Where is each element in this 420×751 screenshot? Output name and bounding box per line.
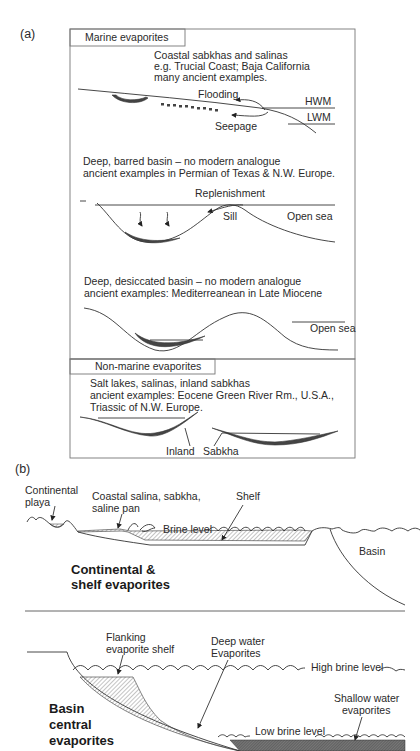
evaporation-arrow-1 [140,212,142,226]
panel-a-label: (a) [20,27,35,41]
barred-desc-1: Deep, barred basin – no modern analogue [83,155,280,167]
flanking-shelf-pointer [118,655,123,674]
coastal-salina-label-2: saline pan [92,502,140,514]
desiccated-desc-1: Deep, desiccated basin – no modern analo… [84,275,301,287]
panel-b-label: (b) [15,462,30,476]
coastal-salina-pointer [118,514,122,528]
replenishment-label: Replenishment [195,187,265,199]
inland-pointer [185,428,190,446]
basin-label: Basin [359,545,385,557]
hwm-label: HWM [305,95,331,107]
inland-label: Inland [166,445,195,457]
high-brine-waves [73,666,305,671]
desiccated-desc-2: ancient examples: Mediterreanean in Late… [84,287,322,299]
open-sea-label-2: Open sea [310,322,356,334]
shelf-label: Shelf [236,490,260,502]
continental-title-2: shelf evaporites [71,577,170,592]
coastal-sabkha-section: Coastal sabkhas and salinas e.g. Trucial… [78,49,335,133]
deep-water-pointer [198,660,228,728]
brine-level-label: Brine level [163,523,212,535]
shallow-water-label-1: Shallow water [334,692,400,704]
continental-shelf-section: Continental playa Coastal salina, sabkha… [25,484,420,605]
marine-header: Marine evaporites [85,31,168,43]
sabkha-deposit-inland [212,428,338,445]
basin-slope [330,529,405,605]
open-sea-label-1: Open sea [287,210,333,222]
sabkha-surface-line [222,433,320,434]
basin-sea-surface [312,528,420,533]
desiccated-profile [84,308,338,351]
playa-pointer [52,506,55,520]
flooding-label: Flooding [198,88,238,100]
basin-title-3: evaporites [49,733,114,748]
barred-desc-2: ancient examples in Permian of Texas & N… [83,167,335,179]
continental-title-1: Continental & [71,562,156,577]
seepage-label: Seepage [215,120,257,132]
low-brine-waves-right [315,735,405,737]
evaporite-environments-diagram: (a) Marine evaporites Coastal sabkhas an… [0,0,420,751]
sill-label: Sill [223,210,237,222]
nonmarine-section: Salt lakes, salinas, inland sabkhas anci… [80,377,338,457]
panel-b: (b) Continental playa Coastal salina, sa… [15,462,420,751]
basin-central-section: Flanking evaporite shelf Deep water Evap… [27,631,405,751]
flanking-shelf-label-2: evaporite shelf [106,643,174,655]
evaporation-arrow-2 [167,212,169,226]
playa-deposit [50,524,64,527]
low-brine-label: Low brine level [255,725,325,737]
barred-basin-section: Deep, barred basin – no modern analogue … [80,155,335,243]
nonmarine-header: Non-marine evaporites [95,360,201,372]
deep-water-label-2: Evaporites [211,647,261,659]
continental-playa-label-2: playa [25,496,50,508]
deep-water-label-1: Deep water [211,635,265,647]
brine-wave-left [128,524,155,532]
sabkha-label: Sabkha [203,445,239,457]
basin-title-1: Basin [49,701,84,716]
inland-lake-deposit [80,412,198,436]
desiccated-basin-section: Deep, desiccated basin – no modern analo… [84,275,356,351]
nonmarine-desc-2: ancient examples: Eocene Green River Rm.… [90,389,334,401]
seepage-arrow [232,112,268,116]
high-brine-label: High brine level [311,661,383,673]
nonmarine-desc-1: Salt lakes, salinas, inland sabkhas [90,377,250,389]
seepage-dots [161,103,218,112]
basin-title-2: central [49,717,92,732]
flanking-shelf-label-1: Flanking [106,631,146,643]
lwm-label: LWM [307,111,331,123]
shallow-water-evaporite-deposit [230,740,405,751]
coastal-salina-label-1: Coastal salina, sabkha, [92,490,201,502]
nonmarine-desc-3: Triassic of N.W. Europe. [90,401,203,413]
barred-basin-deposit [125,232,180,243]
coastal-desc-3: many ancient examples. [154,71,267,83]
low-brine-waves-left [218,735,250,737]
sabkha-deposit [112,95,148,103]
panel-a: (a) Marine evaporites Coastal sabkhas an… [20,27,356,458]
shallow-water-label-2: evaporites [342,704,390,716]
continental-playa-label-1: Continental [25,484,78,496]
